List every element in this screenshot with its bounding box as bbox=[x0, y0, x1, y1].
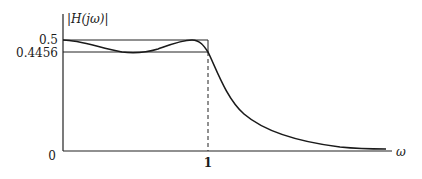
x-tick-1: 1 bbox=[204, 156, 212, 170]
x-axis-label: ω bbox=[396, 145, 406, 159]
response-curve bbox=[63, 40, 386, 149]
y-axis-label: |H(jω)| bbox=[67, 12, 108, 26]
y-tick-0.4456: 0.4456 bbox=[16, 46, 58, 60]
x-tick-0: 0 bbox=[48, 149, 56, 163]
magnitude-response-chart: |H(jω)| 0.5 0.4456 0 1 ω bbox=[0, 0, 422, 179]
y-tick-0.5: 0.5 bbox=[39, 33, 58, 47]
